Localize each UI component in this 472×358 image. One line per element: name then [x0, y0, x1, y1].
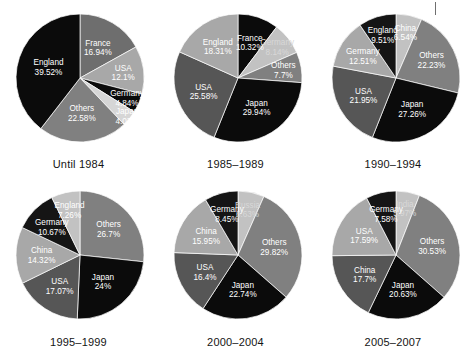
pie-slice-value: 26.7% [97, 230, 120, 239]
pie-slice-name: Germany [369, 205, 404, 214]
pie-svg: Russia6.63%Others29.82%Japan22.74%USA16.… [157, 175, 314, 358]
pie-slice-value: 14.32% [28, 256, 56, 265]
pie-chart-grid: France16.94%USA12.1%Germany4.84%Japan4.0… [0, 0, 472, 358]
pie-slice-name: USA [195, 83, 212, 92]
pie-slice-value: 4.03% [115, 117, 138, 126]
pie-slice-label: China15.95% [192, 227, 220, 246]
pie-slice-value: 29.82% [260, 248, 288, 257]
pie-slice-name: China [195, 227, 217, 236]
pie-slice-value: 12.1% [112, 73, 135, 82]
pie-slice-value: 4.84% [115, 99, 138, 108]
pie-svg: France16.94%USA12.1%Germany4.84%Japan4.0… [0, 0, 157, 175]
pie-slice-value: 16.94% [84, 48, 112, 57]
top-right-tick-mark-icon [435, 2, 436, 15]
pie-slice-value: 7.58% [374, 215, 397, 224]
pie-slice-name: China [395, 24, 417, 33]
pie-slice-name: Others [70, 104, 95, 113]
pie-svg: India5.97%Others30.53%Japan20.63%China17… [314, 175, 472, 358]
pie-chart-cell: Others26.7%Japan24%USA17.07%China14.32%G… [0, 175, 157, 358]
pie-slice-name: USA [355, 87, 372, 96]
pie-slice-name: USA [356, 227, 373, 236]
pie-chart-caption: 1995–1999 [0, 336, 157, 348]
pie-slice-label: China17.7% [353, 266, 376, 285]
pie-slice-name: England [368, 26, 398, 35]
pie-slice-label: Others7.7% [271, 61, 296, 80]
pie-slice-name: England [55, 201, 85, 210]
pie-slice-value: 22.74% [229, 291, 257, 300]
pie-chart-cell: France16.94%USA12.1%Germany4.84%Japan4.0… [0, 0, 157, 175]
pie-slice-label: Japan24% [92, 273, 115, 292]
pie-slice-name: Japan [245, 99, 268, 108]
pie-slice-label: Others26.7% [96, 220, 121, 239]
pie-slice-value: 29.94% [243, 109, 271, 118]
pie-slice-name: Germany [260, 38, 295, 47]
pie-slice-value: 30.53% [418, 247, 446, 256]
pie-slice-name: Others [419, 51, 444, 60]
pie-slice-value: 17.59% [350, 237, 378, 246]
pie-slice-value: 10.67% [38, 228, 66, 237]
pie-slice-label: Germany10.67% [35, 218, 70, 237]
pie-slice-value: 7.26% [58, 211, 81, 220]
pie-svg: France10.32%Germany8.14%Others7.7%Japan2… [157, 0, 314, 175]
pie-slice-value: 24% [95, 282, 111, 291]
pie-slice-name: England [33, 58, 63, 67]
pie-slice-name: Others [96, 220, 121, 229]
pie-chart-caption: 2005–2007 [314, 336, 472, 348]
pie-slice-value: 18.31% [204, 48, 232, 57]
pie-chart-caption: 2000–2004 [157, 336, 314, 348]
pie-slice-label: Japan20.63% [389, 281, 417, 300]
pie-slice-label: Japan4.03% [115, 108, 138, 127]
pie-slice-name: USA [115, 64, 132, 73]
pie-svg: Others26.7%Japan24%USA17.07%China14.32%G… [0, 175, 157, 358]
pie-slice-value: 22.23% [418, 61, 446, 70]
pie-slice-value: 17.7% [353, 276, 376, 285]
pie-slice-label: China14.32% [28, 246, 56, 265]
pie-chart-cell: Russia6.63%Others29.82%Japan22.74%USA16.… [157, 175, 314, 358]
pie-chart-caption: 1990–1994 [314, 158, 472, 170]
pie-slice-value: 20.63% [389, 290, 417, 299]
pie-slice-value: 25.58% [190, 93, 218, 102]
pie-slice-name: China [31, 246, 53, 255]
pie-slice-value: 39.52% [35, 68, 63, 77]
pie-slice-name: Japan [401, 100, 424, 109]
pie-slice-value: 27.26% [398, 110, 426, 119]
pie-slice-value: 9.51% [371, 36, 394, 45]
pie-slice-name: USA [51, 277, 68, 286]
pie-slice-name: Japan [232, 281, 255, 290]
pie-slice-name: France [85, 39, 111, 48]
pie-slice-name: Germany [110, 89, 145, 98]
pie-chart-cell: France10.32%Germany8.14%Others7.7%Japan2… [157, 0, 314, 175]
pie-slice-name: Others [271, 61, 296, 70]
pie-slice-name: Germany [346, 47, 381, 56]
pie-slice-value: 8.45% [215, 215, 238, 224]
pie-slice-value: 21.95% [350, 97, 378, 106]
pie-slice-value: 7.7% [274, 71, 293, 80]
pie-slice-label: USA16.4% [193, 263, 216, 282]
pie-slice-label: USA12.1% [112, 64, 135, 83]
pie-slice-value: 8.14% [266, 48, 289, 57]
pie-slice-value: 12.51% [349, 57, 377, 66]
pie-chart-caption: Until 1984 [0, 158, 157, 170]
pie-slice-name: Japan [392, 281, 415, 290]
pie-slice-name: England [203, 38, 233, 47]
pie-slice-name: Japan [92, 273, 115, 282]
pie-slice-label: Germany12.51% [346, 47, 381, 65]
pie-slice-label: Japan27.26% [398, 100, 426, 119]
pie-chart-cell: China6.54%Others22.23%Japan27.26%USA21.9… [314, 0, 472, 175]
pie-slice-name: China [354, 266, 376, 275]
pie-svg: China6.54%Others22.23%Japan27.26%USA21.9… [314, 0, 472, 175]
pie-slice-name: Others [262, 238, 287, 247]
pie-slice-value: 22.58% [68, 114, 96, 123]
pie-slice-label: Others22.58% [68, 104, 96, 123]
pie-slice-label: England39.52% [33, 58, 63, 76]
pie-slice-label: Others30.53% [418, 237, 446, 256]
pie-slice-value: 15.95% [192, 237, 220, 246]
pie-slice-name: Others [420, 237, 445, 246]
pie-slice-label: England18.31% [203, 38, 233, 57]
pie-slice-name: Germany [210, 205, 245, 214]
pie-slice-label: Japan22.74% [229, 281, 257, 300]
pie-slice-label: Japan29.94% [243, 99, 271, 118]
pie-slice-value: 17.07% [46, 287, 74, 296]
pie-slice-value: 16.4% [193, 273, 216, 282]
pie-chart-cell: India5.97%Others30.53%Japan20.63%China17… [314, 175, 472, 358]
